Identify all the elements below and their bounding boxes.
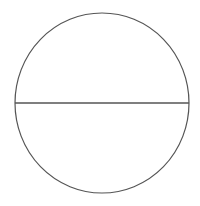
- diagram-canvas: [0, 0, 200, 206]
